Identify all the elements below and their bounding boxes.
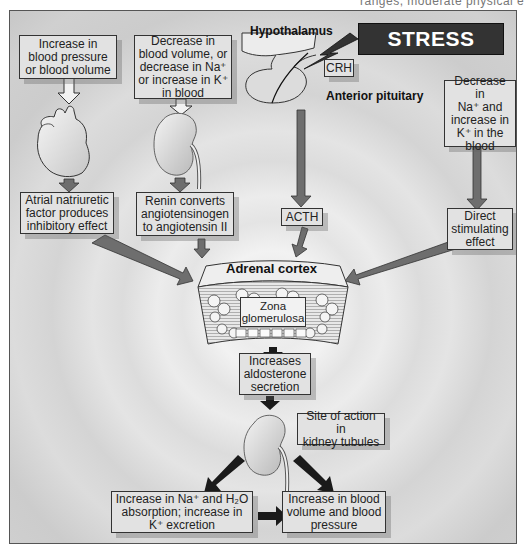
arrow-down-icon — [194, 239, 210, 258]
acth-label: ACTH — [281, 208, 323, 226]
arrow-diagonal-icon — [293, 455, 334, 493]
diagram-graphics — [10, 11, 516, 543]
diagram-frame: STRESS Hypothalamus Anterior pituitary C… — [9, 10, 517, 544]
bp-increase-box: Increase in blood pressure or blood volu… — [19, 35, 117, 79]
arrow-diagonal-icon — [204, 455, 245, 493]
na-decrease-box: Decrease in Na⁺ and increase in K⁺ in th… — [444, 80, 516, 147]
arrow-diagonal-icon — [92, 235, 193, 285]
heart-icon — [38, 106, 90, 176]
blood-volume-decrease-box: Decrease in blood volume, or decrease in… — [134, 35, 232, 99]
arrow-down-icon — [260, 396, 280, 410]
renin-box: Renin converts angiotensinogen to angiot… — [136, 192, 234, 236]
hypothalamus-label: Hypothalamus — [250, 24, 333, 38]
site-of-action-box: Site of action in kidney tubules — [297, 413, 385, 445]
kidney-icon — [244, 415, 287, 491]
arrow-down-icon — [291, 110, 311, 207]
blood-volume-pressure-box: Increase in blood volume and blood press… — [282, 491, 386, 533]
direct-stimulating-box: Direct stimulating effect — [447, 208, 513, 250]
hollow-arrow-icon — [58, 78, 80, 104]
aldosterone-box: Increases aldosterone secretion — [239, 353, 311, 395]
zona-glomerulosa-label: Zona glomerulosa — [240, 297, 306, 327]
arrow-down-icon — [59, 179, 79, 192]
stress-banner: STRESS — [358, 23, 504, 55]
hypothalamus-pituitary-icon — [242, 33, 316, 103]
adrenal-cortex-label: Adrenal cortex — [226, 261, 317, 276]
cut-off-page-text: ranges, moderate physical e — [360, 0, 524, 8]
arrow-down-left-icon — [292, 227, 308, 257]
arrow-down-icon — [467, 147, 487, 210]
hollow-arrow-icon — [170, 99, 192, 115]
anf-box: Atrial natriuretic factor produces inhib… — [20, 192, 114, 234]
arrow-down-icon — [170, 178, 190, 192]
crh-label: CRH — [324, 59, 354, 77]
anterior-pituitary-label: Anterior pituitary — [326, 89, 423, 103]
na-h2o-absorption-box: Increase in Na⁺ and H₂O absorption; incr… — [111, 491, 253, 533]
